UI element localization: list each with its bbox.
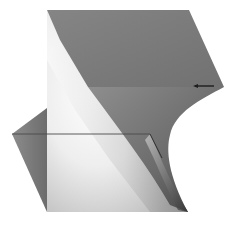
folded-surface-diagram — [0, 0, 240, 226]
left-wedge — [12, 108, 47, 212]
figure-canvas — [0, 0, 240, 226]
